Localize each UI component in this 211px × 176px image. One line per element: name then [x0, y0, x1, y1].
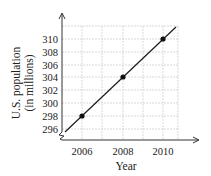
x-tick: 2006 — [72, 146, 93, 157]
y-axis-label: U.S. population — [10, 46, 23, 119]
axis-break-icon — [59, 132, 64, 140]
y-axis-sublabel: (in millions) — [23, 54, 36, 111]
grid — [62, 26, 178, 140]
x-axis-label: Year — [115, 160, 136, 172]
y-tick: 306 — [42, 60, 58, 71]
y-tick: 308 — [42, 47, 58, 58]
x-tick: 2008 — [113, 146, 134, 157]
y-tick: 300 — [42, 98, 58, 109]
y-tick: 298 — [42, 111, 58, 122]
population-chart: 296 298 300 302 304 306 308 310 2006 200… — [0, 0, 211, 176]
y-tick: 296 — [42, 124, 58, 135]
data-point-2010 — [160, 36, 165, 41]
data-point-2006 — [79, 113, 84, 118]
y-tick-labels: 296 298 300 302 304 306 308 310 — [42, 34, 59, 135]
y-tick: 310 — [42, 34, 58, 45]
y-tick: 304 — [42, 72, 59, 83]
x-tick: 2010 — [153, 146, 174, 157]
y-tick: 302 — [42, 85, 58, 96]
data-point-2008 — [120, 74, 125, 79]
x-tick-labels: 2006 2008 2010 — [72, 146, 174, 157]
